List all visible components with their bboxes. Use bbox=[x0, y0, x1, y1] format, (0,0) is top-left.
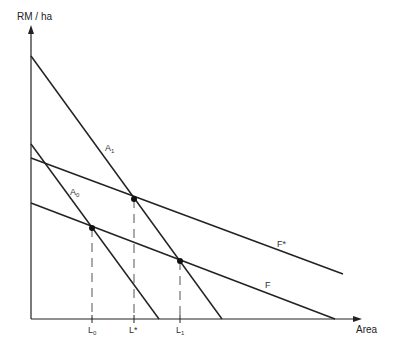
x-axis-arrow-icon bbox=[353, 316, 362, 322]
tick-label-l0: L0 bbox=[88, 326, 96, 336]
curve-label-a0-sub: 0 bbox=[76, 192, 79, 198]
curve-label-f-star: F* bbox=[277, 240, 286, 249]
tick-label-l1-sub: 1 bbox=[181, 330, 184, 336]
point-l1 bbox=[177, 258, 183, 264]
curve-label-a1: A1 bbox=[105, 144, 114, 154]
diagram-canvas bbox=[0, 0, 394, 350]
curve-label-a0: A0 bbox=[70, 188, 79, 198]
tick-label-l1: L1 bbox=[176, 326, 184, 336]
curve-label-a1-sub: 1 bbox=[111, 148, 114, 154]
y-axis-label: RM / ha bbox=[17, 12, 52, 22]
x-axis-label: Area bbox=[356, 325, 377, 335]
curve-a1 bbox=[31, 56, 222, 319]
tick-label-l0-sub: 0 bbox=[93, 330, 96, 336]
curve-f-star bbox=[31, 158, 343, 274]
y-axis-arrow-icon bbox=[28, 25, 34, 34]
point-l0 bbox=[89, 225, 95, 231]
tick-label-lstar: L* bbox=[129, 326, 138, 335]
curve-label-f: F bbox=[265, 281, 271, 290]
point-lstar bbox=[131, 196, 137, 202]
curve-a0 bbox=[31, 144, 159, 319]
